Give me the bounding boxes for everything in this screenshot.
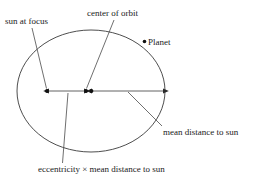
label-eccentricity-times-mean-distance: eccentricity × mean distance to sun xyxy=(38,165,165,174)
planet-marker xyxy=(143,40,147,44)
leader-line-mean-distance xyxy=(128,92,162,126)
label-sun-at-focus: sun at focus xyxy=(5,17,48,26)
leader-line-sun-at-focus xyxy=(32,28,47,89)
diagram-canvas xyxy=(0,0,258,183)
label-mean-distance-to-sun: mean distance to sun xyxy=(163,128,238,137)
sun-focus-marker xyxy=(45,89,49,93)
leader-line-eccentricity xyxy=(63,93,69,163)
label-planet: Planet xyxy=(148,38,171,47)
orbit-center-marker xyxy=(84,89,88,93)
label-center-of-orbit: center of orbit xyxy=(87,9,138,18)
second-focus-marker xyxy=(90,89,94,93)
orbit-diagram: sun at focus center of orbit Planet mean… xyxy=(0,0,258,183)
